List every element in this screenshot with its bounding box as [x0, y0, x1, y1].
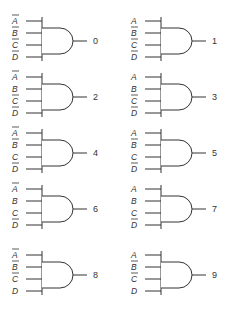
input-label-d: D [12, 220, 18, 230]
input-label-c: C [131, 274, 138, 284]
input-label-b: B [131, 196, 137, 206]
input-label-c: C [131, 40, 138, 50]
input-label-a: A [130, 16, 137, 26]
input-label-d: D [12, 52, 18, 62]
input-label-a: A [130, 184, 137, 194]
input-label-b: B [12, 262, 18, 272]
input-label-c: C [131, 208, 138, 218]
and-gate-5: ABCD5 [130, 128, 217, 174]
input-label-a: A [130, 72, 137, 82]
and-gate-body [161, 28, 192, 54]
output-label: 8 [93, 270, 98, 280]
output-label: 5 [212, 148, 217, 158]
and-gate-8: ABCD8 [11, 249, 98, 296]
input-label-b: B [131, 28, 137, 38]
input-label-a: A [130, 128, 137, 138]
and-gate-3: ABCD3 [130, 72, 217, 118]
decoder-diagram: ABCD0ABCD1ABCD2ABCD3ABCD4ABCD5ABCD6ABCD7… [0, 0, 234, 315]
input-label-d: D [131, 164, 137, 174]
input-label-d: D [131, 220, 137, 230]
and-gate-4: ABCD4 [11, 127, 98, 174]
input-label-c: C [12, 208, 19, 218]
input-label-a: A [11, 128, 18, 138]
input-label-d: D [12, 164, 18, 174]
output-label: 6 [93, 204, 98, 214]
output-label: 3 [212, 92, 217, 102]
input-label-d: D [12, 108, 18, 118]
and-gate-6: ABCD6 [11, 183, 98, 230]
and-gate-body [161, 84, 192, 110]
output-label: 1 [212, 36, 217, 46]
and-gate-body [42, 28, 73, 54]
and-gate-body [161, 196, 192, 222]
input-label-a: A [130, 250, 137, 260]
and-gate-body [42, 84, 73, 110]
output-label: 4 [93, 148, 98, 158]
input-label-a: A [11, 184, 18, 194]
input-label-b: B [12, 84, 18, 94]
input-label-d: D [131, 286, 137, 296]
input-label-b: B [131, 140, 137, 150]
and-gate-2: ABCD2 [11, 71, 98, 118]
input-label-d: D [131, 52, 137, 62]
input-label-b: B [131, 262, 137, 272]
output-label: 0 [93, 36, 98, 46]
and-gate-body [161, 140, 192, 166]
input-label-a: A [11, 250, 18, 260]
and-gate-body [42, 196, 73, 222]
and-gate-0: ABCD0 [11, 15, 98, 62]
input-label-c: C [131, 96, 138, 106]
and-gate-body [42, 140, 73, 166]
and-gate-body [161, 262, 192, 288]
output-label: 2 [93, 92, 98, 102]
input-label-b: B [12, 28, 18, 38]
input-label-c: C [12, 40, 19, 50]
and-gate-9: ABCD9 [130, 250, 217, 296]
and-gate-body [42, 262, 73, 288]
input-label-b: B [12, 196, 18, 206]
input-label-b: B [131, 84, 137, 94]
output-label: 9 [212, 270, 217, 280]
input-label-c: C [12, 274, 19, 284]
input-label-c: C [12, 96, 19, 106]
input-label-d: D [131, 108, 137, 118]
input-label-a: A [11, 16, 18, 26]
and-gate-7: ABCD7 [130, 184, 217, 230]
input-label-c: C [131, 152, 138, 162]
input-label-c: C [12, 152, 19, 162]
input-label-d: D [12, 286, 18, 296]
input-label-a: A [11, 72, 18, 82]
and-gate-1: ABCD1 [130, 16, 217, 62]
output-label: 7 [212, 204, 217, 214]
input-label-b: B [12, 140, 18, 150]
